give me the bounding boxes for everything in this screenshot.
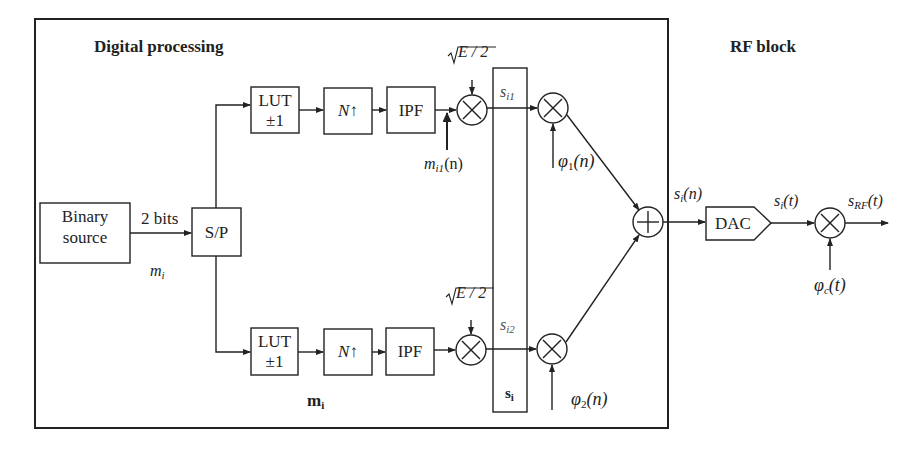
s-i1-label: si1: [500, 84, 515, 102]
sqrt-energy-top-label: E / 2: [458, 44, 488, 60]
m-vec-sub: i: [321, 399, 324, 411]
phi1-arg: (n): [573, 151, 594, 171]
binary-source-line2: source: [40, 229, 130, 246]
srf-sub: RF: [854, 199, 867, 211]
m-i1-base: m: [424, 155, 436, 172]
phi1-base: φ: [558, 151, 568, 171]
m-i1-arg: (n): [444, 155, 463, 172]
s-vector-label: si: [505, 386, 514, 403]
si-n-label: si(n): [674, 186, 702, 204]
lut-top-line1: LUT: [251, 92, 299, 109]
lut-top-label: LUT ±1: [251, 92, 299, 129]
phi2-base: φ: [571, 389, 581, 409]
s-i1-sub: i1: [506, 90, 515, 102]
qpsk-transmitter-diagram: Digital processing RF block Binary sourc…: [0, 0, 919, 450]
dac-label: DAC: [706, 215, 760, 232]
phic-base: φ: [814, 275, 824, 295]
sqrt-energy-bot-label: E / 2: [456, 285, 486, 301]
s-i2-label: si2: [500, 317, 515, 335]
phi2-label: φ2(n): [571, 390, 607, 410]
phi2-arg: (n): [586, 389, 607, 409]
sp-label: S/P: [192, 224, 241, 241]
phi1-label: φ1(n): [558, 152, 594, 172]
lut-bot-label: LUT ±1: [251, 333, 298, 370]
digital-processing-title: Digital processing: [94, 38, 224, 55]
upsample-top-label: N↑: [324, 102, 372, 119]
srf-t-label: sRF(t): [848, 193, 883, 211]
si-n-arg: (n): [683, 185, 702, 202]
s-i2-sub: i2: [506, 323, 515, 335]
lut-bot-line2: ±1: [251, 353, 298, 370]
s-vec-sub: i: [511, 391, 514, 403]
m-i-base: m: [150, 262, 162, 279]
binary-source-line1: Binary: [40, 208, 130, 225]
ipf-bot-label: IPF: [386, 343, 434, 360]
m-i-label: mi: [150, 263, 165, 281]
m-vector-label: mi: [307, 392, 324, 411]
lut-bot-line1: LUT: [251, 333, 298, 350]
phic-arg: (t): [829, 275, 846, 295]
si-t-label: si(t): [774, 193, 798, 211]
ipf-top-label: IPF: [387, 102, 435, 119]
m-i1-label: mi1(n): [424, 156, 463, 174]
phi-c-label: φc(t): [814, 276, 846, 296]
si-t-arg: (t): [783, 192, 798, 209]
diagram-lines: [0, 0, 919, 450]
lut-top-line2: ±1: [251, 112, 299, 129]
srf-arg: (t): [868, 192, 883, 209]
si-vector-block: [493, 68, 527, 412]
m-vec-base: m: [307, 391, 321, 410]
upsample-bot-label: N↑: [324, 343, 372, 360]
m-i-sub: i: [162, 269, 165, 281]
m-i1-sub: i1: [436, 162, 445, 174]
binary-source-label: Binary source: [40, 208, 130, 246]
two-bits-label: 2 bits: [141, 210, 178, 227]
rf-block-title: RF block: [730, 38, 796, 55]
